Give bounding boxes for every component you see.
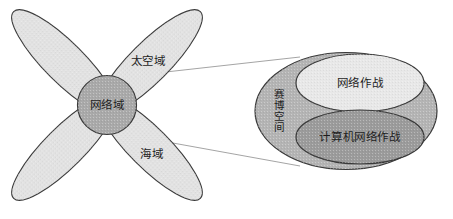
diagram-svg: 陆域 太空域 空域 海域 [0, 0, 453, 219]
figure-canvas: 陆域 太空域 空域 海域 [0, 0, 453, 219]
network-operations-label: 网络作战 [337, 76, 384, 89]
center-circle-label: 网络域 [90, 98, 125, 111]
center-circle-group[interactable]: 网络域 [78, 76, 137, 135]
inner-ellipse-network-operations[interactable]: 网络作战 [296, 54, 424, 112]
petal-label-space: 太空域 [131, 54, 166, 67]
petal-label-sea: 海域 [140, 147, 164, 160]
computer-network-operations-label: 计算机网络作战 [319, 130, 401, 143]
outer-ellipse-label: 赛博空间 [273, 88, 284, 133]
inner-ellipse-computer-network-operations[interactable]: 计算机网络作战 [296, 110, 424, 164]
